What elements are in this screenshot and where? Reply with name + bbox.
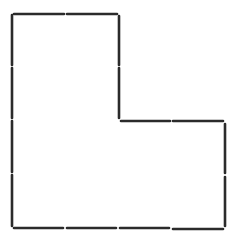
l-shape-matchstick-diagram — [0, 0, 236, 238]
